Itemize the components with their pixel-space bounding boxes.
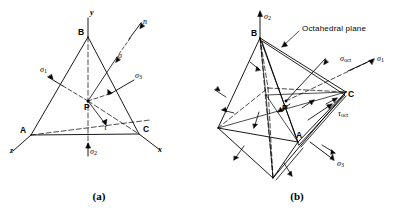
octahedral-plane-edge-offset-1: [301, 96, 346, 147]
edge-AP-dashed: [31, 120, 150, 135]
oct-edge-B-left: [218, 38, 260, 128]
panel-a-drawing: [0, 0, 198, 218]
sigma-3-label-b: σ3: [337, 160, 344, 168]
face-arrow-lower-left-head: [234, 156, 239, 160]
sigma-2-axis-head: [258, 11, 263, 17]
vertex-label-C: C: [143, 125, 149, 134]
face-arrow-inner-down-head: [253, 124, 258, 128]
octahedral-plane-edge-offset-2: [276, 148, 303, 180]
edge-AC: [31, 134, 139, 135]
vertex-label-B-b: B: [251, 29, 257, 38]
sigma-1-dashed: [63, 86, 88, 101]
sigma-1-line: [48, 77, 63, 86]
sigma-3-subscript: 3: [139, 74, 142, 80]
sigma-3-head: [108, 90, 112, 95]
face-arrow-lower-right-head: [331, 150, 335, 155]
sigma-oct-subscript: oct: [344, 57, 351, 63]
oct-inner-back-right: [266, 92, 346, 95]
sigma-3-subscript-b: 3: [341, 162, 344, 168]
figure-panel-b: σ2 B Octahedral plane σoct σ1 C τoct P A…: [198, 0, 396, 218]
sigma-2-label: σ2: [90, 148, 97, 156]
vertex-label-A: A: [20, 126, 26, 135]
face-arrow-upper-left-head: [215, 87, 220, 91]
face-arrow-upper-left: [215, 90, 226, 97]
axis-label-x: x: [158, 146, 162, 154]
normal-vector-label: n: [143, 18, 147, 26]
oct-edge-left-bottom: [218, 128, 273, 178]
sigma-2-subscript: 2: [94, 150, 97, 156]
face-arrow-left-head: [222, 108, 227, 113]
edge-BA: [31, 37, 88, 135]
face-arrow-inner-right-head: [309, 100, 314, 105]
vertex-label-P-b: P: [282, 104, 288, 113]
edge-BC: [88, 37, 139, 134]
tau-oct-subscript: oct: [341, 112, 348, 118]
caption-b: (b): [198, 190, 396, 202]
vertex-label-P: P: [84, 103, 90, 112]
tau-oct-label: τoct: [338, 110, 348, 118]
vertex-label-C-b: C: [348, 90, 354, 99]
tau-vector-label: τ: [104, 124, 107, 132]
normal-vector-line: [129, 23, 141, 39]
sigma-vector-label: σ: [118, 52, 122, 60]
oct-edge-left-front: [218, 128, 298, 142]
sigma-vector-line: [88, 57, 117, 101]
panel-b-drawing: [198, 0, 396, 218]
octahedral-plane-triangle: [262, 41, 345, 145]
sigma-3-label: σ3: [135, 72, 142, 80]
sigma-1-subscript-b: 1: [381, 57, 384, 63]
caption-a: (a): [0, 190, 198, 202]
sigma-oct-line: [286, 59, 325, 101]
edge-PC-dashed: [88, 101, 139, 134]
point-P-marker-b: [285, 100, 288, 103]
octahedral-plane-annotation: Octahedral plane: [302, 25, 366, 33]
sigma-1-subscript: 1: [44, 68, 47, 74]
oct-edge-front-bottom: [273, 142, 298, 178]
axis-label-z: z: [10, 147, 13, 155]
sigma-2-label-b: σ2: [264, 13, 271, 21]
sigma-oct-label: σoct: [340, 55, 351, 63]
axis-label-y: y: [90, 9, 94, 17]
x-axis-line: [139, 134, 160, 150]
tau-oct-head: [327, 104, 332, 109]
figure-panel-a: y B A C P z x n σ τ σ1 σ2 σ3 (a): [0, 0, 198, 218]
oct-edge-B-right: [260, 38, 346, 92]
vertex-label-B: B: [78, 28, 84, 37]
sigma-1-label: σ1: [40, 66, 47, 74]
sigma-3-line: [110, 80, 134, 94]
figure-root: y B A C P z x n σ τ σ1 σ2 σ3 (a): [0, 0, 396, 218]
z-axis-line: [13, 135, 31, 151]
sigma-1-label-b: σ1: [377, 55, 384, 63]
vertex-label-A-b: A: [296, 131, 302, 140]
sigma-2-subscript-b: 2: [268, 15, 271, 21]
sigma-1-axis-head: [369, 59, 374, 64]
